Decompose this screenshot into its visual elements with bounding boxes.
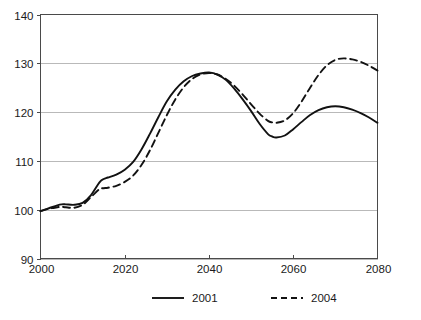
- y-axis-tick-label: 120: [14, 107, 33, 119]
- y-axis-tick-label: 130: [14, 58, 33, 70]
- y-axis-tick-label: 140: [14, 10, 33, 22]
- line-chart: 90100110120130140 20002020204020602080 2…: [0, 0, 421, 320]
- x-axis-tick-label: 2020: [113, 263, 139, 275]
- x-axis-tick-label: 2000: [29, 263, 55, 275]
- chart-figure: 90100110120130140 20002020204020602080 2…: [0, 0, 421, 320]
- caption-stub: [6, 307, 76, 316]
- y-axis-tick-label: 100: [14, 205, 33, 217]
- legend-label-2001: 2001: [192, 292, 218, 304]
- x-axis-tick-label: 2040: [197, 263, 223, 275]
- legend-label-2004: 2004: [311, 292, 337, 304]
- y-axis-tick-label: 110: [15, 156, 33, 168]
- x-axis-tick-label: 2080: [366, 263, 392, 275]
- x-axis-tick-label: 2060: [281, 263, 307, 275]
